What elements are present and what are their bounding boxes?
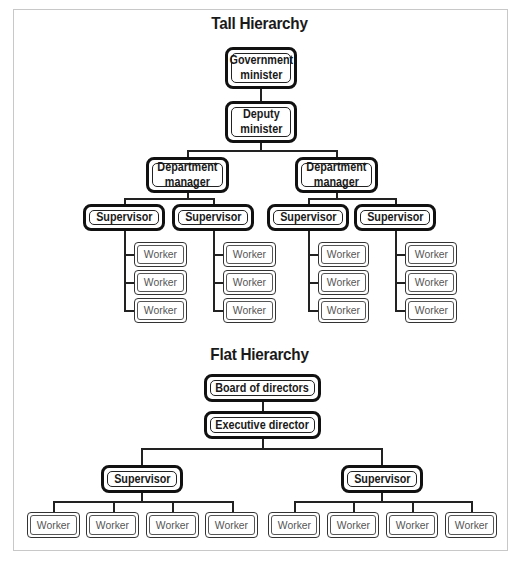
government-minister-box: Governmentminister [225, 47, 297, 89]
supervisor-box: Supervisor [101, 465, 183, 493]
worker-box: Worker [318, 298, 369, 323]
worker-box: Worker [205, 512, 258, 538]
worker-box: Worker [268, 512, 320, 538]
worker-box: Worker [405, 242, 457, 267]
worker-box: Worker [27, 512, 80, 538]
connector [187, 150, 189, 157]
connector [141, 448, 143, 465]
connector [294, 501, 472, 503]
connector [308, 198, 396, 200]
connector [262, 402, 264, 411]
flat-hierarchy-title: Flat Hierarchy [26, 345, 493, 365]
connector [187, 150, 337, 152]
connector [381, 448, 383, 465]
supervisor-box: Supervisor [354, 204, 436, 231]
supervisor-box: Supervisor [172, 204, 254, 231]
connector [141, 493, 143, 501]
connector [395, 231, 397, 311]
connector [260, 143, 262, 150]
department-manager-box-right: Departmentmanager [295, 157, 378, 193]
worker-box: Worker [327, 512, 379, 538]
worker-box: Worker [405, 270, 457, 295]
connector [124, 198, 214, 200]
worker-box: Worker [223, 298, 276, 323]
executive-director-box: Executive director [204, 411, 321, 439]
worker-box: Worker [223, 242, 276, 267]
worker-box: Worker [386, 512, 438, 538]
worker-box: Worker [318, 270, 369, 295]
worker-box: Worker [405, 298, 457, 323]
connector [53, 501, 233, 503]
board-of-directors-box: Board of directors [204, 374, 321, 402]
connector [141, 448, 382, 450]
worker-box: Worker [146, 512, 199, 538]
connector [308, 231, 310, 311]
worker-box: Worker [134, 242, 187, 267]
supervisor-box: Supervisor [341, 465, 423, 493]
connector [124, 231, 126, 311]
supervisor-box: Supervisor [83, 204, 165, 231]
worker-box: Worker [445, 512, 497, 538]
worker-box: Worker [134, 270, 187, 295]
department-manager-box-left: Departmentmanager [146, 157, 229, 193]
connector [336, 150, 338, 157]
worker-box: Worker [318, 242, 369, 267]
worker-box: Worker [86, 512, 139, 538]
worker-box: Worker [223, 270, 276, 295]
connector [260, 89, 262, 101]
deputy-minister-box: Deputyminister [225, 101, 297, 143]
connector [381, 493, 383, 501]
connector [213, 231, 215, 311]
tall-hierarchy-title: Tall Hierarchy [26, 14, 493, 34]
worker-box: Worker [134, 298, 187, 323]
supervisor-box: Supervisor [267, 204, 349, 231]
